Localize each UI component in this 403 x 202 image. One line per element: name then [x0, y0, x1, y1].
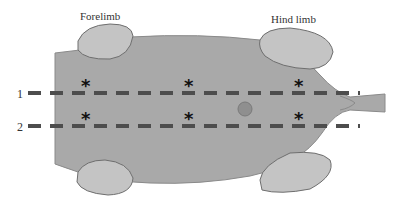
forelimb-label: Forelimb [80, 10, 121, 22]
center-dot [238, 102, 252, 116]
marker-line2-3: * [294, 108, 304, 129]
line-1-label: 1 [17, 87, 23, 101]
hind-limb-label: Hind limb [271, 13, 316, 25]
marker-line2-2: * [184, 108, 194, 129]
marker-line2-1: * [81, 108, 91, 129]
marker-line1-2: * [184, 75, 194, 96]
marker-line1-3: * [294, 75, 304, 96]
marker-line1-1: * [81, 75, 91, 96]
mouse-diagram: 1 2 * * * * * * Forelimb Hind limb [0, 0, 403, 202]
line-2-label: 2 [17, 120, 23, 134]
